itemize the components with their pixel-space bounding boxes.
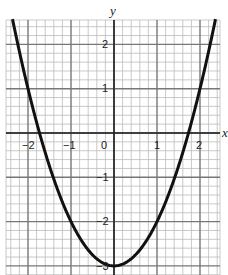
major-grid <box>6 20 220 275</box>
x-tick-label: 1 <box>154 139 160 151</box>
x-tick-label: 0 <box>101 139 107 151</box>
y-tick-label: 2 <box>102 38 108 50</box>
parabola-chart: y x −2 −1 0 1 2 2 1 −1 −2 −3 <box>0 0 228 275</box>
y-tick-label: −3 <box>96 260 109 272</box>
y-tick-label: −1 <box>96 171 109 183</box>
y-tick-label: −2 <box>96 215 109 227</box>
x-tick-label: 2 <box>196 139 202 151</box>
minor-grid <box>6 20 220 275</box>
y-tick-label: 1 <box>102 82 108 94</box>
x-tick-label: −2 <box>22 139 35 151</box>
x-axis-label: x <box>221 125 228 140</box>
x-tick-label: −1 <box>63 139 76 151</box>
y-axis-label: y <box>108 3 116 18</box>
